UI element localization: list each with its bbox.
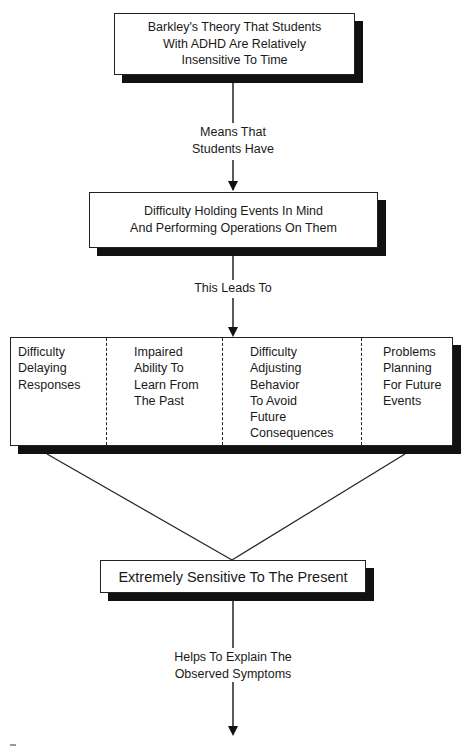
node-difficulty-holding-text: Difficulty Holding Events In Mind And Pe… [90,203,377,236]
text-line: Difficulty [18,344,81,360]
text-line: Ability To [134,360,199,376]
text-line: Difficulty Holding Events In Mind [90,203,377,220]
text-line: To Avoid [250,393,333,409]
text-line: Observed Symptoms [163,666,303,683]
text-line: This Leads To [178,280,288,297]
text-line: Helps To Explain The [163,649,303,666]
cell-adjusting-behavior: Difficulty Adjusting Behavior To Avoid F… [223,338,362,445]
edge-label-this-leads-to: This Leads To [178,280,288,297]
text-line: Delaying [18,360,81,376]
text-line: The Past [134,393,199,409]
node-barkley-theory: Barkley's Theory That Students With ADHD… [114,13,355,75]
text-line: Adjusting [250,360,333,376]
text-line: Future [250,409,333,425]
cell-planning-future: Problems Planning For Future Events [362,338,454,445]
text-line: Students Have [173,141,293,158]
text-line: Insensitive To Time [115,52,354,69]
node-consequences: Difficulty Delaying Responses Impaired A… [10,337,453,446]
node-difficulty-holding-events: Difficulty Holding Events In Mind And Pe… [89,192,378,248]
edge-label-helps-explain: Helps To Explain The Observed Symptoms [163,649,303,682]
text-line: Barkley's Theory That Students [115,19,354,36]
text-line: Means That [173,124,293,141]
edge-label-means-that: Means That Students Have [173,124,293,157]
node-present-text: Extremely Sensitive To The Present [101,568,365,586]
text-line: Responses [18,377,81,393]
text-line: Events [383,393,441,409]
text-line: Learn From [134,377,199,393]
text-line: Behavior [250,377,333,393]
cell-delaying-responses: Difficulty Delaying Responses [11,338,107,445]
node-barkley-theory-text: Barkley's Theory That Students With ADHD… [115,19,354,69]
text-line: Problems [383,344,441,360]
text-line: With ADHD Are Relatively [115,36,354,53]
text-line: Consequences [250,425,333,441]
text-line: And Performing Operations On Them [90,220,377,237]
text-line: Planning [383,360,441,376]
node-sensitive-to-present: Extremely Sensitive To The Present [100,560,366,593]
flowchart: Barkley's Theory That Students With ADHD… [0,0,473,749]
text-line: Difficulty [250,344,333,360]
cell-learn-from-past: Impaired Ability To Learn From The Past [107,338,223,445]
scan-artifact [10,744,16,746]
text-line: Impaired [134,344,199,360]
text-line: For Future [383,377,441,393]
